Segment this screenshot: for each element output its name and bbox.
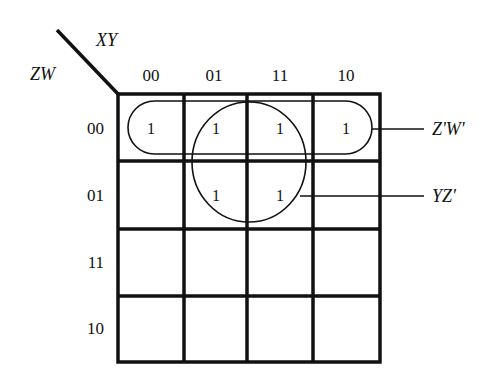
group-label-z-prime-w-prime: Z'W' <box>432 119 466 139</box>
cell-value: 1 <box>212 187 220 204</box>
cell-value: 1 <box>276 120 284 137</box>
kmap-grid <box>118 94 380 362</box>
karnaugh-map: XY ZW 00 01 11 10 00 01 11 10 1 1 1 1 1 … <box>0 0 495 386</box>
row-variables-label: ZW <box>30 64 57 84</box>
row-header: 11 <box>88 253 104 272</box>
row-header: 00 <box>87 119 104 138</box>
column-header: 00 <box>143 66 160 85</box>
group-label-yz-prime: YZ' <box>432 186 457 206</box>
column-header: 01 <box>206 66 223 85</box>
row-header: 10 <box>87 319 104 338</box>
column-header: 10 <box>338 66 355 85</box>
cell-value: 1 <box>212 120 220 137</box>
column-variables-label: XY <box>95 30 119 50</box>
row-header: 01 <box>87 186 104 205</box>
cell-value: 1 <box>276 187 284 204</box>
column-header: 11 <box>272 66 288 85</box>
cell-value: 1 <box>147 120 155 137</box>
cell-value: 1 <box>342 120 350 137</box>
group-z-prime-w-prime-outline <box>128 101 372 154</box>
